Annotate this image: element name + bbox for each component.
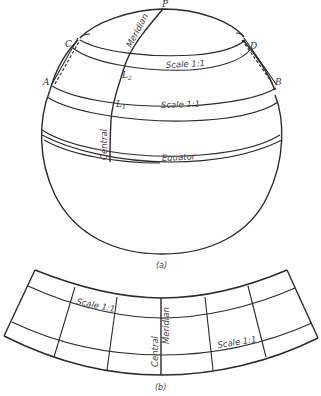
sphere-upper-left-edge — [50, 40, 78, 90]
label-scale-left-b: Scale 1:1 — [76, 296, 116, 314]
label-scale-lower-a: Scale 1:1 — [161, 99, 201, 110]
label-l2-subscript: 2 — [127, 74, 132, 81]
label-pole-p: P — [161, 0, 169, 9]
cone-edge-right — [244, 38, 276, 84]
label-l2: L2 — [121, 70, 132, 81]
label-central-b: Central — [150, 335, 160, 367]
label-equator-a: Equator — [162, 151, 196, 163]
label-point-d: D — [249, 41, 257, 51]
label-point-a: A — [42, 77, 50, 87]
label-central-a: Central — [99, 128, 109, 160]
development-meridian-4 — [205, 297, 213, 370]
caption-b: (b) — [155, 383, 166, 392]
cone-projection-diagram: P C D A B L2 L1 Meridian Central Scale 1… — [0, 0, 321, 396]
figure-b-labels: Scale 1:1 Scale 1:1 Central Meridian (b) — [76, 296, 258, 392]
figure-a-sphere — [42, 9, 282, 254]
label-meridian-b: Meridian — [161, 307, 171, 344]
development-right-edge — [287, 270, 318, 338]
parallel-scale-upper — [73, 48, 250, 70]
parallel-c-d — [80, 40, 245, 56]
label-l1-subscript: 1 — [122, 103, 126, 110]
label-l1: L1 — [115, 99, 126, 110]
development-left-edge — [4, 270, 35, 336]
label-point-c: C — [65, 39, 72, 49]
caption-a: (a) — [156, 261, 167, 270]
development-meridian-5 — [248, 286, 266, 357]
label-point-b: B — [274, 77, 282, 87]
cone-edge-right-inner — [242, 40, 273, 84]
cap-top-arc — [80, 9, 244, 38]
label-scale-upper-a: Scale 1:1 — [166, 58, 206, 70]
